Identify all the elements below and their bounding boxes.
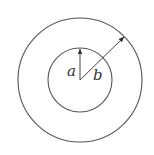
concentric-circles-diagram: a b [0, 0, 154, 155]
label-b: b [93, 66, 103, 84]
label-a: a [67, 62, 76, 80]
